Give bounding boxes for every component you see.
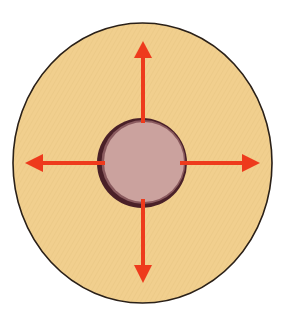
radial-expansion-diagram xyxy=(0,0,281,318)
center-circle xyxy=(97,118,187,208)
diagram-canvas xyxy=(0,0,281,318)
